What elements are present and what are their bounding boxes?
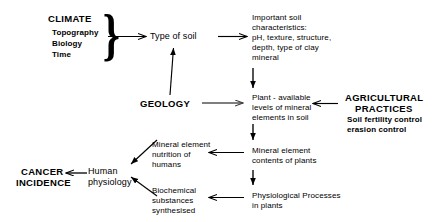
node-mineral-nutrition-of-humans: Mineral element nutrition of humans xyxy=(152,140,210,170)
node-mineral-contents-of-plants: Mineral element contents of plants xyxy=(252,146,317,166)
edge-geology-to-type-of-soil xyxy=(170,48,174,95)
node-physiological-processes: Physiological Processes in plants xyxy=(252,191,341,211)
node-type-of-soil: Type of soil xyxy=(150,31,197,42)
flow-diagram: CLIMATE Topography Biology Time } Type o… xyxy=(0,0,435,222)
node-climate-label: CLIMATE xyxy=(48,13,92,25)
node-soil-characteristics: Important soil characteristics: pH, text… xyxy=(252,13,331,63)
node-agricultural-practices-sub-items: Soil fertility control erasion control xyxy=(347,115,422,135)
node-cancer-incidence-line1: CANCER xyxy=(21,166,63,178)
node-climate-sub-items: Topography Biology Time xyxy=(52,27,99,60)
node-biochemical-substances: Biochemical substances synthesised xyxy=(152,186,196,216)
node-agricultural-practices-line2: PRACTICES xyxy=(355,103,413,115)
climate-group-brace: } xyxy=(103,6,120,64)
node-human-physiology: Human physiology xyxy=(88,166,132,188)
node-agricultural-practices-line1: AGRICULTURAL xyxy=(345,92,423,104)
node-plant-available: Plant - available levels of mineral elem… xyxy=(252,93,312,123)
node-cancer-incidence-line2: INCIDENCE xyxy=(16,177,71,189)
node-geology: GEOLOGY xyxy=(140,98,190,110)
